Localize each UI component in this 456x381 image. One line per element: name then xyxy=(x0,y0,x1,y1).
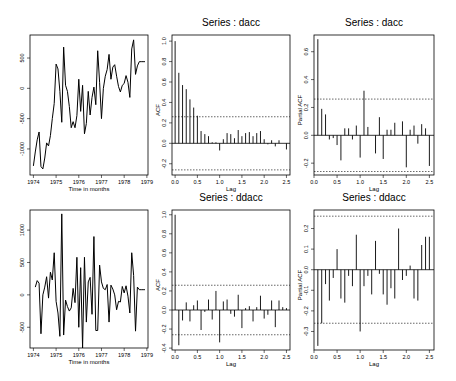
x-tick-label: 2.0 xyxy=(402,354,410,360)
panel-acf-dacc: Series : dacc0.00.51.01.52.02.5Lag-0.20.… xyxy=(155,17,290,192)
x-tick-label: 1.5 xyxy=(238,354,246,360)
y-axis-label: Partial ACF xyxy=(297,94,303,125)
x-tick-label: 1.5 xyxy=(379,354,387,360)
x-tick-label: 1.5 xyxy=(379,179,387,185)
y-tick-label: -0.2 xyxy=(161,324,167,333)
x-tick-label: 1975 xyxy=(50,352,62,358)
y-tick-label: 0.4 xyxy=(303,76,309,84)
x-tick-label: 2.5 xyxy=(426,179,434,185)
x-tick-label: 2.5 xyxy=(283,179,291,185)
y-tick-label: 0.4 xyxy=(161,99,167,107)
y-tick-label: -0.2 xyxy=(161,159,167,168)
x-axis-label: Time in months xyxy=(69,359,110,365)
chart-figure: 197419751976197719781979Time in months-1… xyxy=(0,0,456,381)
x-tick-label: 1.5 xyxy=(238,179,246,185)
x-tick-label: 1978 xyxy=(118,352,130,358)
x-tick-label: 0.5 xyxy=(333,354,341,360)
x-tick-label: 2.0 xyxy=(402,179,410,185)
y-tick-label: 0 xyxy=(19,87,25,90)
y-tick-label: 500 xyxy=(19,258,25,267)
y-tick-label: 0.6 xyxy=(303,48,309,56)
x-tick-label: 2.5 xyxy=(426,354,434,360)
y-tick-label: 0.4 xyxy=(161,268,167,276)
y-tick-label: -0.3 xyxy=(303,327,309,336)
x-tick-label: 1.0 xyxy=(216,354,224,360)
y-tick-label: -0.1 xyxy=(303,286,309,295)
plot-frame xyxy=(314,35,434,175)
y-tick-label: -1000 xyxy=(19,142,25,156)
plot-frame xyxy=(314,210,434,350)
figure-canvas: 197419751976197719781979Time in months-1… xyxy=(0,0,456,381)
x-tick-label: 1975 xyxy=(50,179,62,185)
y-tick-label: -500 xyxy=(19,113,25,124)
x-tick-label: 1.0 xyxy=(356,179,364,185)
x-axis-label: Lag xyxy=(226,361,236,367)
x-tick-label: 2.0 xyxy=(260,179,268,185)
y-tick-label: 0.2 xyxy=(161,119,167,127)
y-tick-label: 0.8 xyxy=(161,230,167,238)
panel-title: Series : dacc xyxy=(202,17,260,28)
panel-acf-ddacc: Series : ddacc0.00.51.01.52.02.5Lag-0.4-… xyxy=(155,192,290,367)
x-tick-label: 0.5 xyxy=(333,179,341,185)
panel-title: Series : ddacc xyxy=(342,192,405,203)
panel-pacf-ddacc: Series : ddacc0.00.51.01.52.02.5Lag-0.3-… xyxy=(297,192,434,367)
y-axis-label: ACF xyxy=(155,279,161,291)
panel-ts-ddacc: 197419751976197719781979Time in months-5… xyxy=(19,210,153,365)
x-tick-label: 1976 xyxy=(73,179,85,185)
x-tick-label: 1979 xyxy=(141,352,153,358)
y-tick-label: 500 xyxy=(19,53,25,62)
x-axis-label: Time in months xyxy=(69,186,110,192)
y-tick-label: -0.4 xyxy=(161,343,167,352)
y-axis-label: ACF xyxy=(155,104,161,116)
panel-ts-dacc: 197419751976197719781979Time in months-1… xyxy=(19,35,153,192)
x-tick-label: 0.0 xyxy=(171,354,179,360)
y-tick-label: 0.1 xyxy=(303,245,309,253)
y-tick-label: 0.0 xyxy=(161,306,167,314)
x-tick-label: 0.5 xyxy=(194,179,202,185)
x-tick-label: 1974 xyxy=(27,179,39,185)
y-tick-label: 0.8 xyxy=(161,58,167,66)
y-tick-label: 0.0 xyxy=(303,266,309,274)
x-tick-label: 0.0 xyxy=(310,354,318,360)
panel-title: Series : dacc xyxy=(345,17,403,28)
y-tick-label: 0.2 xyxy=(161,287,167,295)
y-tick-label: 0.0 xyxy=(161,139,167,147)
panel-title: Series : ddacc xyxy=(199,192,262,203)
y-tick-label: 1.0 xyxy=(161,37,167,45)
y-tick-label: -0.2 xyxy=(303,306,309,315)
x-tick-label: 1978 xyxy=(118,179,130,185)
x-tick-label: 1976 xyxy=(73,352,85,358)
y-tick-label: 0.2 xyxy=(303,225,309,233)
x-tick-label: 0.0 xyxy=(171,179,179,185)
x-tick-label: 2.5 xyxy=(283,354,291,360)
x-tick-label: 1974 xyxy=(27,352,39,358)
y-tick-label: -0.2 xyxy=(303,158,309,167)
x-tick-label: 1979 xyxy=(141,179,153,185)
y-tick-label: 0.2 xyxy=(303,104,309,112)
x-tick-label: 0.5 xyxy=(194,354,202,360)
x-tick-label: 1977 xyxy=(95,352,107,358)
x-tick-label: 2.0 xyxy=(260,354,268,360)
panel-pacf-dacc: Series : dacc0.00.51.01.52.02.5Lag-0.20.… xyxy=(297,17,434,192)
x-tick-label: 1.0 xyxy=(216,179,224,185)
x-tick-label: 1.0 xyxy=(356,354,364,360)
y-tick-label: 1.0 xyxy=(161,211,167,219)
series-line xyxy=(33,40,145,169)
y-tick-label: 1000 xyxy=(19,224,25,236)
y-tick-label: 0.6 xyxy=(161,249,167,257)
series-line xyxy=(35,214,145,348)
y-tick-label: 0.6 xyxy=(161,78,167,86)
x-tick-label: 1977 xyxy=(95,179,107,185)
y-axis-label: Partial ACF xyxy=(297,269,303,300)
y-tick-label: -500 xyxy=(19,322,25,333)
x-tick-label: 0.0 xyxy=(310,179,318,185)
y-tick-label: 0 xyxy=(19,293,25,296)
plot-frame xyxy=(172,210,290,350)
x-axis-label: Lag xyxy=(369,361,379,367)
y-tick-label: 0.0 xyxy=(303,131,309,139)
